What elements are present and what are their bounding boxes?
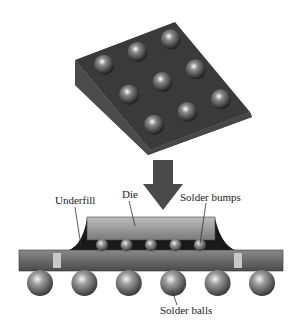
- label-solder-bumps: Solder bumps: [180, 191, 241, 203]
- chip-solder-ball: [186, 59, 206, 79]
- chip-solder-ball: [144, 115, 164, 135]
- chip-solder-ball: [161, 29, 181, 49]
- label-underfill: Underfill: [55, 194, 95, 206]
- chip-solder-ball: [119, 85, 139, 105]
- label-solder-balls: Solder balls: [160, 304, 212, 316]
- via-right: [234, 253, 242, 268]
- solder-bump: [145, 239, 157, 251]
- via-left: [53, 253, 61, 268]
- solder-ball: [71, 270, 97, 296]
- solder-bump: [121, 239, 133, 251]
- solder-bump: [170, 239, 182, 251]
- solder-ball: [249, 270, 275, 296]
- solder-ball: [116, 270, 142, 296]
- cross-section: [19, 217, 283, 296]
- solder-ball: [205, 270, 231, 296]
- chip-image: [75, 22, 252, 155]
- solder-ball: [27, 270, 53, 296]
- package-diagram: Underfill Die Solder bumps Solder balls: [0, 0, 301, 332]
- chip-solder-ball: [128, 42, 148, 62]
- chip-solder-ball: [153, 72, 173, 92]
- solder-bump: [96, 239, 108, 251]
- label-die: Die: [122, 188, 138, 200]
- solder-bump: [194, 239, 206, 251]
- chip-solder-ball: [94, 55, 114, 75]
- down-arrow-icon: [143, 160, 183, 210]
- die: [87, 217, 215, 240]
- chip-solder-ball: [211, 89, 231, 109]
- chip-solder-ball: [178, 102, 198, 122]
- solder-ball: [160, 270, 186, 296]
